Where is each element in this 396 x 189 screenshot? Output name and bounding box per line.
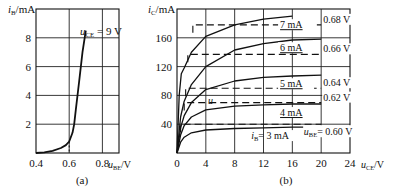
y-tick-label: 80: [161, 89, 173, 101]
input-curve: [36, 31, 86, 153]
x-tick-label: 16: [287, 157, 299, 169]
x-tick-label: 8: [232, 157, 238, 169]
x-tick-label: 12: [258, 157, 269, 169]
y-axis-label: iB/mA: [8, 3, 35, 16]
dashed-label-ube: 0.64 V: [323, 77, 351, 88]
x-tick-label: 24: [345, 157, 357, 169]
dashed-label-ube: 0.66 V: [323, 43, 351, 54]
chart-caption: (a): [76, 174, 89, 187]
dashed-label-ube: 0.62 V: [323, 92, 351, 103]
x-tick-label: 20: [316, 157, 328, 169]
x-axis-label: uCE/V: [361, 159, 385, 171]
curve-label-ib: 5 mA: [280, 78, 303, 89]
curve-label-ib: 4 mA: [280, 107, 303, 118]
y-tick-label: 40: [161, 118, 173, 130]
x-tick-label: 0.4: [29, 157, 43, 169]
chart-caption: (b): [280, 174, 293, 187]
x-tick-label: 4: [203, 157, 209, 169]
y-tick-label: 4: [26, 89, 32, 101]
transistor-characteristic-charts: 24680.40.60.8iB/mAuBE/VuCE = 9 V(a) iB= …: [0, 0, 396, 189]
curve-label-ib: 6 mA: [280, 42, 303, 53]
y-tick-label: 8: [26, 32, 32, 44]
curve-label-u: u: [208, 95, 213, 106]
output-characteristic-chart: iB= 3 mA4 mA5 mA6 mA7 mAuBE= 0.60 V0.62 …: [148, 3, 385, 187]
curve-label-ib: 7 mA: [280, 19, 303, 30]
x-tick-label: 0.6: [62, 157, 76, 169]
x-tick-label: 0: [174, 157, 180, 169]
dashed-line-ube: [188, 54, 321, 62]
input-characteristic-chart: 24680.40.60.8iB/mAuBE/VuCE = 9 V(a): [8, 3, 132, 187]
y-tick-label: 2: [26, 118, 32, 130]
x-axis-label: uBE/V: [108, 159, 132, 171]
curve-annotation: uCE = 9 V: [80, 25, 122, 38]
y-axis-label: iC/mA: [148, 3, 175, 16]
dashed-label-ube: 0.68 V: [323, 14, 351, 25]
y-tick-label: 160: [156, 32, 173, 44]
y-tick-label: 120: [156, 61, 173, 73]
curve-label-ib: iB= 3 mA: [251, 130, 290, 142]
y-tick-label: 6: [26, 61, 32, 73]
